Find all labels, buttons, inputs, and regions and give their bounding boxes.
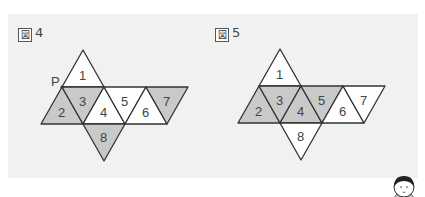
fig5-num-7: 7 [360, 93, 367, 108]
fig5-num-6: 6 [339, 104, 346, 119]
fig5-num-3: 3 [276, 93, 283, 108]
fig4-num-1: 1 [79, 68, 86, 83]
fig4-num-6: 6 [142, 105, 149, 120]
fig5-num-2: 2 [255, 104, 262, 119]
fig5-num-4: 4 [297, 104, 304, 119]
fig5-num-8: 8 [297, 129, 304, 144]
fig4-num-2: 2 [58, 105, 65, 120]
fig5-num-5: 5 [318, 93, 325, 108]
fig4-num-7: 7 [163, 94, 170, 109]
octahedron-nets: 1 2 3 4 5 6 7 8 P 1 2 3 4 5 6 7 8 [0, 0, 425, 197]
fig4-num-3: 3 [79, 94, 86, 109]
fig5-num-1: 1 [276, 67, 283, 82]
fig4-num-8: 8 [100, 130, 107, 145]
fig4-num-4: 4 [100, 105, 107, 120]
vertex-p-dot [60, 85, 63, 88]
fig4-num-5: 5 [121, 94, 128, 109]
child-face-icon [389, 170, 419, 197]
vertex-p-label: P [51, 74, 60, 89]
